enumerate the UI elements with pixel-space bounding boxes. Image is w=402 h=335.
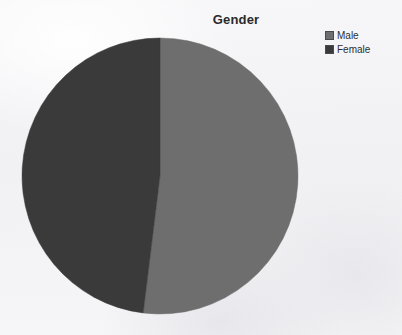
pie-slice-female[interactable]	[22, 38, 160, 313]
legend-item-male[interactable]: Male	[325, 29, 370, 42]
legend-item-female[interactable]: Female	[325, 43, 370, 56]
pie-slice-male[interactable]	[143, 38, 298, 314]
legend-label-female: Female	[337, 44, 370, 55]
pie-chart-plot-area	[21, 33, 299, 319]
male-swatch-icon	[325, 31, 334, 40]
legend-label-male: Male	[337, 30, 359, 41]
chart-canvas: Gender Male Female	[0, 0, 402, 335]
female-swatch-icon	[325, 45, 334, 54]
chart-title: Gender	[186, 12, 286, 27]
pie-chart-svg	[21, 33, 299, 319]
chart-legend: Male Female	[325, 29, 370, 56]
